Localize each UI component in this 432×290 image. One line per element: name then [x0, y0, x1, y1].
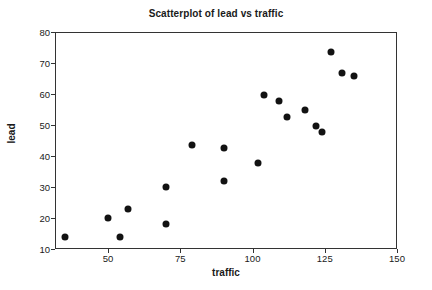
y-tick-mark — [51, 249, 55, 250]
chart-title: Scatterplot of lead vs traffic — [0, 8, 432, 19]
x-tick-label: 75 — [163, 253, 197, 264]
x-tick-mark — [397, 249, 398, 253]
y-axis-title: lead — [6, 114, 17, 154]
y-tick-mark — [51, 94, 55, 95]
y-tick-mark — [51, 156, 55, 157]
y-axis-tick-labels: 1020304050607080 — [25, 0, 50, 290]
y-tick-mark — [51, 32, 55, 33]
y-tick-label: 30 — [30, 182, 50, 193]
x-tick-mark — [180, 249, 181, 253]
plot-area — [55, 32, 397, 249]
y-tick-mark — [51, 63, 55, 64]
y-tick-label: 80 — [30, 27, 50, 38]
x-tick-label: 100 — [236, 253, 270, 264]
y-tick-mark — [51, 187, 55, 188]
x-tick-mark — [253, 249, 254, 253]
y-tick-label: 20 — [30, 213, 50, 224]
x-tick-label: 150 — [380, 253, 414, 264]
x-axis-title: traffic — [55, 267, 397, 278]
x-tick-mark — [108, 249, 109, 253]
x-tick-label: 125 — [308, 253, 342, 264]
y-tick-label: 50 — [30, 120, 50, 131]
x-tick-label: 50 — [91, 253, 125, 264]
y-tick-mark — [51, 218, 55, 219]
y-tick-mark — [51, 125, 55, 126]
y-tick-label: 60 — [30, 89, 50, 100]
y-tick-label: 10 — [30, 244, 50, 255]
scatterplot-figure: Scatterplot of lead vs traffic 102030405… — [0, 0, 432, 290]
y-tick-label: 70 — [30, 58, 50, 69]
x-tick-mark — [325, 249, 326, 253]
y-tick-label: 40 — [30, 151, 50, 162]
